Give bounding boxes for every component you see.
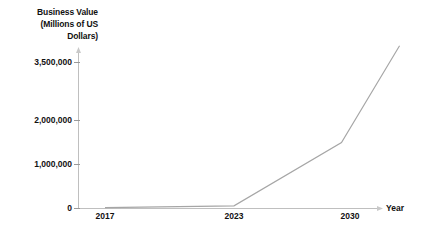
plot-area: [0, 0, 421, 233]
y-axis-arrowhead-icon: [76, 47, 81, 53]
x-axis-arrowhead-icon: [377, 206, 383, 211]
data-series-line: [105, 46, 400, 208]
chart-container: Business Value (Millions of US Dollars) …: [0, 0, 421, 233]
